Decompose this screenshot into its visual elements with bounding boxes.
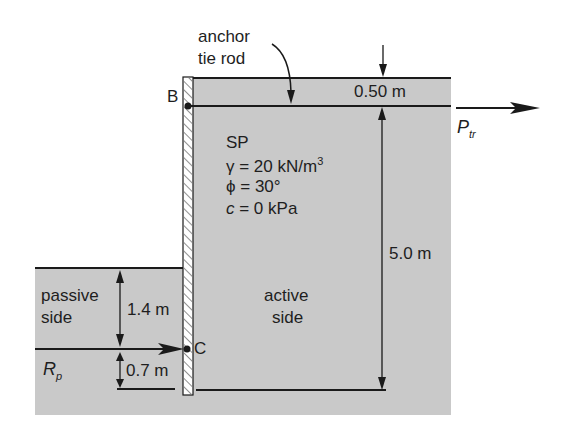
unit-weight-label: γ = 20 kN/m3 — [226, 156, 323, 175]
tie-force-label: Ptr — [457, 118, 476, 140]
soil-type-label: SP — [226, 134, 249, 151]
cohesion-label: c = 0 kPa — [226, 200, 297, 217]
passive-side-label-line2: side — [41, 309, 72, 326]
friction-angle-label: ϕ = 30° — [226, 178, 281, 195]
reaction-force-label: Rp — [43, 360, 62, 382]
reaction-offset-label: 0.7 m — [126, 362, 169, 379]
active-side-label-line2: side — [272, 309, 303, 326]
point-b-label: B — [167, 88, 178, 105]
point-b-marker — [185, 103, 192, 110]
anchor-label-line1: anchor — [198, 28, 250, 45]
active-height-label: 5.0 m — [389, 245, 432, 262]
active-side-label-line1: active — [264, 287, 308, 304]
passive-side-label-line1: passive — [41, 287, 99, 304]
passive-height-label: 1.4 m — [127, 301, 170, 318]
wall-diagram — [0, 0, 561, 437]
top-offset-label: 0.50 m — [354, 83, 406, 100]
point-c-label: C — [194, 340, 206, 357]
point-c-marker — [184, 346, 191, 353]
anchor-label-line2: tie rod — [198, 50, 245, 67]
top-offset-arrow — [379, 64, 387, 77]
